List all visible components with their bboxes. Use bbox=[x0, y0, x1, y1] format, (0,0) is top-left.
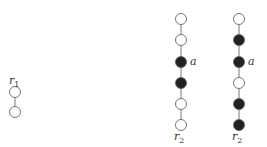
empty-node bbox=[234, 78, 245, 89]
path-middle: ar2 bbox=[174, 14, 197, 146]
vertex-label: a bbox=[190, 55, 197, 68]
root-label: r2 bbox=[232, 130, 242, 145]
empty-node bbox=[234, 14, 245, 25]
path-right: ar2 bbox=[232, 14, 255, 146]
path-graphs-diagram: r1ar2ar2 bbox=[0, 0, 267, 147]
empty-node bbox=[10, 107, 21, 118]
empty-node bbox=[176, 120, 187, 131]
empty-node bbox=[176, 99, 187, 110]
filled-node bbox=[176, 57, 187, 68]
vertex-label: a bbox=[248, 55, 255, 68]
path-r1: r1 bbox=[9, 74, 21, 118]
filled-node bbox=[176, 78, 187, 89]
filled-node bbox=[234, 57, 245, 68]
empty-node bbox=[176, 35, 187, 46]
root-label: r1 bbox=[9, 74, 19, 89]
root-label: r2 bbox=[174, 130, 184, 145]
empty-node bbox=[176, 14, 187, 25]
filled-node bbox=[234, 120, 245, 131]
filled-node bbox=[234, 99, 245, 110]
filled-node bbox=[234, 35, 245, 46]
